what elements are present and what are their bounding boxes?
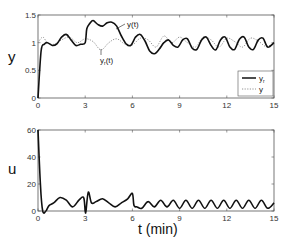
xtick-label: 9 xyxy=(177,214,182,223)
xtick-label: 3 xyxy=(83,214,88,223)
xtick-label: 3 xyxy=(83,101,88,110)
bottom-plot-frame xyxy=(38,130,274,211)
bottom-plot: 0204060 03691215 u t (min) xyxy=(8,126,279,237)
xtick-label: 9 xyxy=(177,101,182,110)
ytick-label: 60 xyxy=(27,126,36,135)
annotation-y: y(t) xyxy=(127,20,139,29)
xtick-label: 0 xyxy=(36,101,41,110)
ytick-label: 1.5 xyxy=(25,11,37,20)
ytick-label: 20 xyxy=(27,180,36,189)
xlabel: t (min) xyxy=(138,221,178,237)
xtick-label: 6 xyxy=(130,214,135,223)
legend-label-y: y xyxy=(259,85,263,94)
xtick-label: 12 xyxy=(222,214,231,223)
ytick-label: 1 xyxy=(32,39,37,48)
xtick-label: 15 xyxy=(270,101,279,110)
legend-box xyxy=(238,71,273,96)
legend: yr y xyxy=(238,71,273,96)
xtick-label: 12 xyxy=(222,101,231,110)
ytick-label: 40 xyxy=(27,153,36,162)
top-ylabel: y xyxy=(8,48,16,65)
figure: 00.511.5 03691215 y(t) yr(t) yr y y 0204… xyxy=(0,0,292,246)
xtick-label: 0 xyxy=(36,214,41,223)
ytick-label: 0.5 xyxy=(25,66,37,75)
top-plot: 00.511.5 03691215 y(t) yr(t) yr y y xyxy=(8,11,279,110)
bottom-ylabel: u xyxy=(8,160,16,177)
xtick-label: 15 xyxy=(270,214,279,223)
xtick-label: 6 xyxy=(130,101,135,110)
annotation-yr: yr(t) xyxy=(100,56,114,66)
